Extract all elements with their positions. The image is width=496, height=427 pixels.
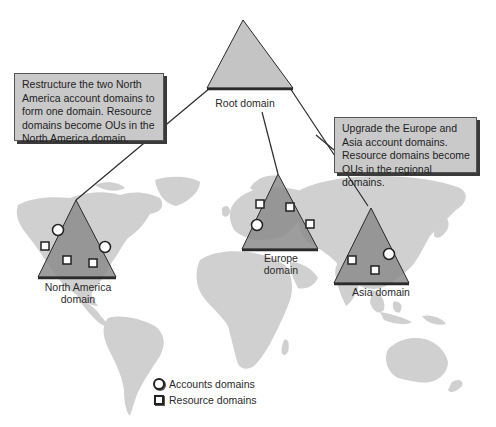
root-domain-label: Root domain [205, 97, 285, 109]
europe-label-line1: Europe [246, 252, 316, 264]
callout-north-america: Restructure the two North America accoun… [14, 73, 164, 141]
borneo [393, 302, 402, 313]
indonesia [380, 312, 412, 324]
resource-domain-marker [286, 203, 294, 211]
resource-domain-marker [256, 200, 264, 208]
callout-europe-asia: Upgrade the Europe and Asia account doma… [334, 117, 477, 173]
account-domain-marker [252, 220, 263, 231]
square-icon [154, 395, 164, 405]
legend-row-resource: Resource domains [153, 392, 257, 408]
legend-row-accounts: Accounts domains [153, 376, 257, 392]
madagascar [281, 340, 288, 355]
asia-domain-label: Asia domain [335, 286, 427, 298]
callout-north-america-text: Restructure the two North America accoun… [22, 78, 157, 146]
diagram-canvas: Restructure the two North America accoun… [0, 0, 496, 427]
account-domain-marker [100, 242, 111, 253]
root-domain-triangle [207, 20, 293, 89]
north-america-domain-label: North America domain [30, 281, 126, 305]
uk [222, 206, 230, 217]
connector-callout-eu [316, 135, 334, 150]
resource-domain-marker [306, 220, 314, 228]
world-map-diagram [0, 0, 496, 427]
account-domain-marker [384, 249, 395, 260]
resource-domain-marker [41, 242, 49, 250]
circle-icon [153, 378, 165, 390]
resource-domain-marker [348, 256, 356, 264]
north-america-label-line1: North America [30, 281, 126, 293]
resource-domain-marker [371, 266, 379, 274]
continent-australia [386, 338, 448, 383]
new-zealand [448, 380, 462, 392]
resource-domain-marker [89, 259, 97, 267]
north-america-label-line2: domain [30, 293, 126, 305]
account-domain-marker [53, 225, 64, 236]
canada-islands [95, 182, 125, 191]
new-guinea [422, 315, 446, 324]
callout-europe-asia-text: Upgrade the Europe and Asia account doma… [342, 122, 470, 190]
legend-accounts-label: Accounts domains [169, 378, 255, 390]
legend-resource-label: Resource domains [169, 394, 257, 406]
europe-domain-label: Europe domain [246, 252, 316, 276]
connector-root-to-europe [262, 112, 278, 174]
resource-domain-marker [63, 256, 71, 264]
legend: Accounts domains Resource domains [153, 376, 257, 408]
europe-label-line2: domain [246, 264, 316, 276]
